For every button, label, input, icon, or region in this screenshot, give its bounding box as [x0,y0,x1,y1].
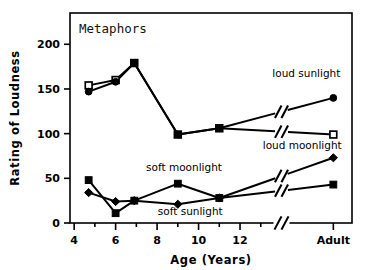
marker-filled-circle [131,60,138,67]
y-tick-label: 100 [37,128,60,141]
marker-filled-circle [85,88,92,95]
chart-container: Metaphors Rating of Loudness Age (Years)… [0,0,368,270]
marker-filled-circle [216,125,223,132]
series-label-loud-sunlight: loud sunlight [272,67,340,79]
x-tick-label: 10 [191,234,207,247]
series-label-soft-sunlight: soft sunlight [158,205,223,217]
marker-filled-square [85,177,92,184]
marker-filled-circle [330,94,337,101]
x-tick-label: 12 [232,234,247,247]
marker-filled-square [112,210,119,217]
marker-filled-square [174,180,181,187]
y-tick-label: 150 [37,83,60,96]
marker-filled-circle [174,131,181,138]
y-tick-label: 200 [37,38,60,51]
marker-filled-square [330,181,337,188]
x-tick-label: 6 [112,234,120,247]
metaphors-line-chart: Metaphors Rating of Loudness Age (Years)… [0,0,368,270]
x-tick-label: 4 [70,234,78,247]
chart-title: Metaphors [79,21,147,36]
marker-filled-circle [112,78,119,85]
y-tick-label: 0 [52,217,60,230]
series-label-soft-moonlight: soft moonlight [146,161,222,173]
x-tick-label: 8 [153,234,161,247]
series-label-loud-moonlight: loud moonlight [263,139,342,151]
y-tick-label: 50 [45,172,61,185]
x-axis-label: Age (Years) [170,253,251,267]
marker-open-square [330,131,337,138]
x-tick-label-adult: Adult [317,234,350,247]
y-axis-label: Rating of Loudness [8,50,22,186]
